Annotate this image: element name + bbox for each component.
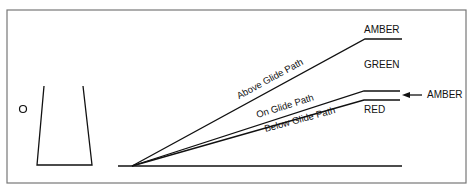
light-indicator-icon: [20, 106, 27, 113]
green-label: GREEN: [364, 59, 400, 70]
amber-top-label: AMBER: [364, 24, 400, 35]
above-glide-path-line: [132, 39, 402, 166]
glide-path-diagram: [0, 0, 471, 190]
amber-right-label: AMBER: [427, 89, 463, 100]
frame-border: [7, 10, 466, 183]
runway-shape: [37, 86, 92, 165]
arrow-left-icon: [402, 92, 410, 98]
red-label: RED: [364, 104, 385, 115]
